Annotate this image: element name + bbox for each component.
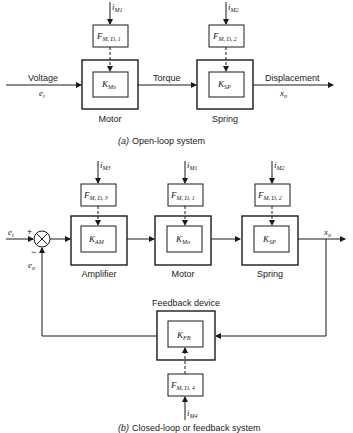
block-name-spring: Spring [212,114,238,124]
input-symbol-ei-b: ei [8,227,14,238]
feedback-symbol-eo: eo [28,260,35,271]
voltage-label: Voltage [28,73,58,83]
input-label-m1-b: iM1 [187,160,198,171]
plus-sign: + [27,227,32,237]
gain-label-sp-b: KSP [262,234,276,245]
gain-label-mo-b: KMo [175,234,190,245]
input-label-m1: iM1 [112,2,123,13]
input-label-m2-b: iM2 [274,160,285,171]
disturbance-label-3: FM, D, 3 [83,190,108,201]
closed-spring-block [242,161,298,265]
disturbance-label-2: FM, D, 2 [212,31,237,42]
output-symbol-xo: xo [279,88,287,99]
disturbance-label-4: FM, D, 4 [170,380,195,391]
caption-a: (a)Open-loop system [118,136,205,146]
open-spring-block [197,2,253,109]
caption-b: (b)Closed-loop or feedback system [118,423,261,433]
input-label-m2: iM2 [228,2,239,13]
closed-motor-block [155,161,211,265]
torque-label: Torque [153,73,181,83]
output-symbol-xo-b: xo [323,227,331,238]
gain-label-mo: KMo [101,79,116,90]
disturbance-label-2-b: FM, D, 2 [257,190,282,201]
gain-label-am: KAM [88,234,105,245]
feedback-block [157,311,215,420]
input-symbol-ei: ei [39,88,45,99]
block-name-motor-b: Motor [171,269,194,279]
input-label-m4: iM4 [187,408,198,419]
closed-amplifier-block [71,161,127,265]
block-name-motor: Motor [98,114,121,124]
gain-label-sp: KSP [217,79,231,90]
block-name-amplifier: Amplifier [81,269,116,279]
minus-sign: − [31,247,36,257]
block-diagram: iM1 FM, D, 1 KMo Motor iM2 FM, D, 2 KSP … [0,0,353,433]
gain-label-fb: KFB [176,330,191,341]
disturbance-label-1: FM, D, 1 [96,31,121,42]
disturbance-label-1-b: FM, D, 1 [170,190,195,201]
block-name-spring-b: Spring [257,269,283,279]
feedback-device-label: Feedback device [152,298,220,308]
input-label-m3: iM3 [100,160,111,171]
summing-junction [34,231,50,247]
displacement-label: Displacement [265,73,320,83]
open-motor-block [82,2,138,109]
